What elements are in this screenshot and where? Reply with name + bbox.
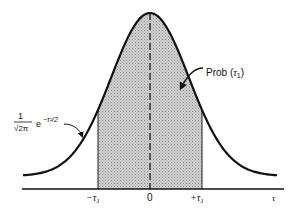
tick-label-neg-tau1: −τ1 (86, 192, 100, 205)
curve-label-arrow (64, 124, 82, 136)
svg-text:e: e (36, 119, 41, 129)
prob-label: Prob (τ1) (206, 67, 244, 79)
normal-distribution-figure: −τ1 0 +τ1 τ 1 √2π e −τ²/2 Prob (τ1) (0, 0, 290, 212)
tick-label-zero: 0 (147, 192, 153, 203)
tick-label-pos-tau1: +τ1 (190, 192, 204, 205)
svg-text:√2π: √2π (14, 124, 29, 133)
svg-text:−τ²/2: −τ²/2 (43, 116, 58, 123)
svg-text:1: 1 (18, 111, 23, 121)
axis-label-tau: τ (272, 193, 276, 203)
curve-formula-label: 1 √2π e −τ²/2 (14, 111, 58, 133)
